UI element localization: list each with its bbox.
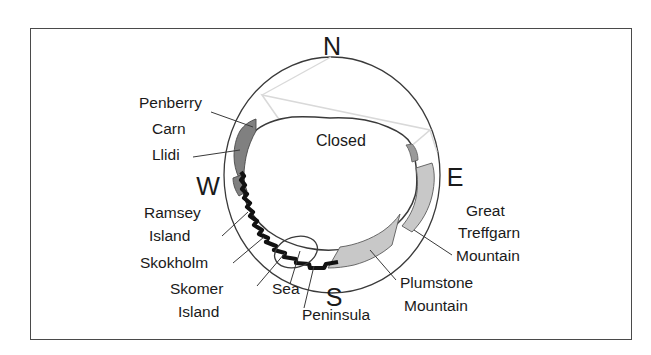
label-skokholm: Skokholm (140, 254, 208, 271)
label-plumstone-mountain: Mountain (404, 297, 468, 314)
label-ramsey-island: Island (149, 227, 190, 244)
panorama-diagram: N W E S Closed Penberry Carn Llidi Ramse… (0, 0, 651, 355)
leader-treffgarn (414, 230, 452, 255)
leader-skokholm (233, 237, 264, 263)
compass-west: W (196, 172, 220, 200)
leader-ramsey (222, 212, 248, 236)
label-peninsula: Peninsula (302, 306, 370, 323)
label-skomer-island: Island (178, 303, 219, 320)
label-sea: Sea (272, 280, 300, 297)
compass-north: N (323, 32, 341, 60)
leader-peninsula (304, 266, 314, 308)
label-skomer: Skomer (170, 280, 223, 297)
label-treffgarn: Treffgarn (458, 224, 520, 241)
leader-carn-llidi (193, 150, 240, 157)
label-great: Great (466, 202, 505, 219)
label-carn: Carn (152, 120, 186, 137)
closed-region-label: Closed (316, 132, 366, 149)
leader-plumstone (370, 250, 396, 280)
figure-root: N W E S Closed Penberry Carn Llidi Ramse… (0, 0, 651, 355)
compass-east: E (447, 163, 464, 191)
label-llidi: Llidi (152, 146, 180, 163)
leader-penberry (211, 112, 253, 127)
label-plumstone: Plumstone (400, 274, 473, 291)
label-penberry: Penberry (139, 94, 202, 111)
label-treffgarn-mountain: Mountain (456, 247, 520, 264)
label-ramsey: Ramsey (144, 204, 201, 221)
